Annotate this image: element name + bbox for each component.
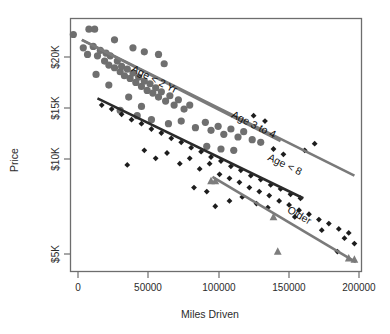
x-tick-label-100000: 100000 — [202, 282, 236, 293]
data-point-age-2-yr — [138, 103, 145, 110]
y-tick-label-10k: $10K — [50, 147, 61, 171]
data-point-age-8 — [164, 150, 170, 156]
data-point-age-8 — [256, 189, 262, 195]
data-point-age-2-yr — [257, 139, 264, 146]
data-point-age-8 — [326, 221, 332, 227]
data-point-age-8 — [246, 185, 252, 191]
data-point-age-2-yr — [129, 44, 136, 51]
data-point-age-2-yr — [230, 147, 237, 154]
data-point-age-8 — [212, 203, 218, 209]
data-point-age-8 — [129, 117, 135, 123]
data-point-age-8 — [153, 155, 159, 161]
data-point-age-2-yr — [207, 127, 214, 134]
data-point-age-8 — [207, 161, 213, 167]
data-point-age-8 — [227, 198, 233, 204]
data-point-age-8 — [227, 175, 233, 181]
x-tick-label-0: 0 — [75, 282, 81, 293]
x-axis-tick-labels: 0 50000 100000 150000 200000 — [75, 282, 376, 293]
x-tick-label-200000: 200000 — [342, 282, 376, 293]
y-axis-ticks — [64, 57, 70, 254]
data-point-age-2-yr — [80, 44, 87, 51]
data-point-age-2-yr — [161, 60, 168, 67]
data-point-age-8 — [352, 241, 358, 247]
data-point-age-2-yr — [202, 119, 209, 126]
price-vs-miles-scatter-chart: $20K $15K $10K $5K Price 0 50000 100000 … — [0, 0, 390, 334]
data-point-age-2-yr — [70, 31, 77, 38]
data-point-age-2-yr — [125, 93, 132, 100]
data-point-age-2-yr — [178, 117, 185, 124]
data-point-age-2-yr — [165, 120, 172, 127]
data-point-age-8 — [316, 217, 322, 223]
y-tick-label-15k: $15K — [50, 96, 61, 120]
data-point-age-8 — [191, 185, 197, 191]
data-point-age-2-yr — [111, 36, 118, 43]
data-point-age-8 — [217, 171, 223, 177]
data-point-age-8 — [312, 141, 318, 147]
data-points-layer — [70, 26, 359, 263]
series-labels-layer: Age < 2 YrAge 3 to 4Age < 8Older — [130, 62, 314, 227]
data-point-age-8 — [237, 179, 243, 185]
data-point-age-8 — [346, 230, 352, 236]
data-point-age-2-yr — [105, 81, 112, 88]
data-point-age-8 — [276, 198, 282, 204]
data-point-age-8 — [187, 155, 193, 161]
data-point-age-2-yr — [249, 136, 256, 143]
data-point-age-8 — [342, 235, 348, 241]
data-point-age-8 — [319, 227, 325, 233]
y-tick-label-20k: $20K — [50, 45, 61, 69]
data-point-age-8 — [177, 161, 183, 167]
data-point-age-2-yr — [217, 145, 224, 152]
data-point-age-2-yr — [175, 96, 182, 103]
data-point-older — [274, 247, 282, 254]
y-axis-tick-labels: $20K $15K $10K $5K — [50, 45, 61, 263]
x-tick-label-150000: 150000 — [272, 282, 306, 293]
data-point-age-2-yr — [192, 124, 199, 131]
x-axis-title: Miles Driven — [181, 308, 239, 320]
data-point-age-2-yr — [215, 123, 222, 130]
x-tick-label-50000: 50000 — [134, 282, 162, 293]
data-point-age-2-yr — [155, 51, 162, 58]
data-point-age-8 — [99, 102, 105, 108]
data-point-age-2-yr — [240, 128, 247, 135]
data-point-age-2-yr — [141, 48, 148, 55]
y-tick-label-5k: $5K — [50, 245, 61, 263]
data-point-age-2-yr — [91, 26, 98, 33]
data-point-age-2-yr — [84, 51, 91, 58]
data-point-age-8 — [197, 166, 203, 172]
trendline-age-3-to-4 — [82, 40, 355, 176]
data-point-age-8 — [336, 226, 342, 232]
data-point-age-2-yr — [92, 71, 99, 78]
data-point-age-8 — [204, 189, 210, 195]
y-axis-title: Price — [8, 148, 20, 172]
data-point-age-2-yr — [227, 125, 234, 132]
data-point-age-2-yr — [220, 131, 227, 138]
x-axis-ticks — [78, 272, 359, 278]
data-point-age-2-yr — [234, 133, 241, 140]
data-point-age-8 — [266, 193, 272, 199]
data-point-age-2-yr — [186, 101, 193, 108]
data-point-age-8 — [141, 147, 147, 153]
data-point-age-8 — [124, 162, 130, 168]
